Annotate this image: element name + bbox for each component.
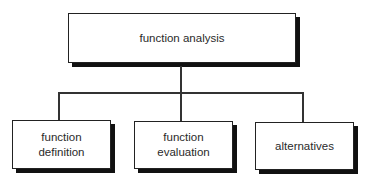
root-box: function analysis bbox=[68, 13, 296, 63]
child-box-function-definition: function definition bbox=[12, 120, 111, 169]
child-label-line1: function bbox=[157, 130, 209, 145]
child-box-alternatives: alternatives bbox=[255, 122, 354, 170]
child-box-function-evaluation: function evaluation bbox=[134, 121, 233, 169]
root-label: function analysis bbox=[139, 31, 224, 46]
connector-horizontal bbox=[58, 92, 303, 94]
child-label-line2: definition bbox=[38, 145, 84, 160]
connector-vertical-left bbox=[58, 92, 60, 121]
connector-vertical-root bbox=[180, 66, 182, 121]
child-label-line1: alternatives bbox=[275, 139, 334, 154]
child-label-line1: function bbox=[38, 130, 84, 145]
connector-vertical-right bbox=[302, 92, 304, 122]
child-label-line2: evaluation bbox=[157, 145, 209, 160]
